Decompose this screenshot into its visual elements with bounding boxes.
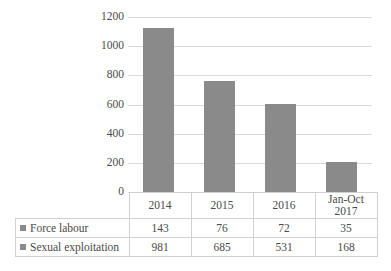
category-header-2016: 2016 <box>253 193 315 219</box>
table-cell: 143 <box>129 219 191 238</box>
plot-area <box>128 17 372 192</box>
table-cell: 72 <box>253 219 315 238</box>
table-row: Sexual exploitation981685531168 <box>16 238 378 257</box>
category-label-line: 2014 <box>149 199 172 211</box>
table-corner-spacer <box>16 193 130 219</box>
y-axis-label-1000: 1000 <box>80 40 124 52</box>
bar-2016 <box>265 104 296 192</box>
category-header-2015: 2015 <box>191 193 253 219</box>
y-axis-label-200: 200 <box>80 157 124 169</box>
category-label-line: 2016 <box>273 199 296 211</box>
bar-jan-oct-2017 <box>326 162 357 192</box>
table-cell: 76 <box>191 219 253 238</box>
y-axis-label-800: 800 <box>80 69 124 81</box>
legend-entry-force-labour: Force labour <box>16 219 130 238</box>
bar-2014 <box>143 28 174 192</box>
y-axis-label-600: 600 <box>80 99 124 111</box>
category-label-line: 2017 <box>316 206 377 218</box>
legend-swatch-icon <box>20 244 26 250</box>
table-cell: 168 <box>315 238 377 257</box>
category-label-line: 2015 <box>211 199 234 211</box>
legend-label: Sexual exploitation <box>30 242 119 254</box>
legend-swatch-icon <box>20 225 26 231</box>
legend-label: Force labour <box>30 223 88 235</box>
y-axis-tick-labels: 120010008006004002000 <box>80 17 124 192</box>
y-axis-label-400: 400 <box>80 128 124 140</box>
table-header-row: 201420152016Jan-Oct2017 <box>16 193 378 219</box>
table-cell: 981 <box>129 238 191 257</box>
chart-figure: 120010008006004002000 201420152016Jan-Oc… <box>0 0 391 271</box>
legend-entry-sexual-exploitation: Sexual exploitation <box>16 238 130 257</box>
bar-2015 <box>204 81 235 192</box>
table-cell: 531 <box>253 238 315 257</box>
table-cell: 35 <box>315 219 377 238</box>
gridline-1200 <box>128 17 372 18</box>
category-header-jan-oct-2017: Jan-Oct2017 <box>315 193 377 219</box>
y-axis-label-1200: 1200 <box>80 11 124 23</box>
category-header-2014: 2014 <box>129 193 191 219</box>
table-cell: 685 <box>191 238 253 257</box>
data-table: 201420152016Jan-Oct2017Force labour14376… <box>15 192 378 257</box>
category-label-line: Jan-Oct <box>328 193 364 205</box>
table-row: Force labour143767235 <box>16 219 378 238</box>
